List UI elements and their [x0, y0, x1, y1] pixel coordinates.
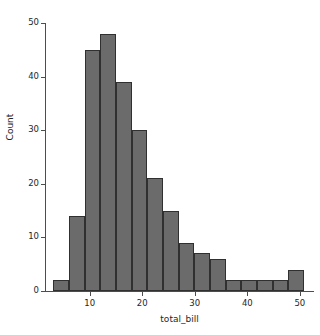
- histogram-bar: [69, 216, 85, 291]
- x-tick-label: 40: [232, 299, 262, 308]
- x-tick-mark: [90, 292, 91, 296]
- histogram-bar: [85, 50, 101, 291]
- histogram-figure: 01020304050 1020304050 total_bill Count: [0, 0, 320, 335]
- x-tick-mark: [247, 292, 248, 296]
- histogram-bar: [210, 259, 226, 291]
- x-tick-mark: [195, 292, 196, 296]
- histogram-bar: [116, 82, 132, 291]
- histogram-bar: [226, 280, 242, 291]
- bar-series: [45, 23, 313, 291]
- plot-area: [45, 23, 313, 291]
- y-tick-mark: [41, 237, 45, 238]
- y-tick-label: 0: [0, 286, 39, 295]
- x-tick-mark: [300, 292, 301, 296]
- y-tick-label: 40: [0, 72, 39, 81]
- x-tick-label: 10: [75, 299, 105, 308]
- x-tick-label: 50: [285, 299, 315, 308]
- histogram-bar: [147, 178, 163, 291]
- y-tick-mark: [41, 23, 45, 24]
- y-tick-label: 50: [0, 18, 39, 27]
- histogram-bar: [132, 130, 148, 291]
- y-tick-label: 20: [0, 179, 39, 188]
- histogram-bar: [179, 243, 195, 291]
- x-tick-label: 20: [127, 299, 157, 308]
- x-tick-label: 30: [180, 299, 210, 308]
- histogram-bar: [53, 280, 69, 291]
- y-axis-spine: [45, 23, 46, 292]
- y-tick-mark: [41, 184, 45, 185]
- y-axis-label: Count: [5, 97, 15, 157]
- x-axis-spine: [45, 291, 314, 292]
- histogram-bar: [163, 211, 179, 291]
- x-axis-label: total_bill: [45, 314, 314, 324]
- histogram-bar: [257, 280, 273, 291]
- histogram-bar: [100, 34, 116, 291]
- y-tick-mark: [41, 291, 45, 292]
- y-tick-label: 10: [0, 232, 39, 241]
- histogram-bar: [273, 280, 289, 291]
- histogram-bar: [194, 253, 210, 291]
- histogram-bar: [241, 280, 257, 291]
- x-tick-mark: [142, 292, 143, 296]
- y-tick-mark: [41, 130, 45, 131]
- y-tick-mark: [41, 77, 45, 78]
- histogram-bar: [288, 270, 304, 291]
